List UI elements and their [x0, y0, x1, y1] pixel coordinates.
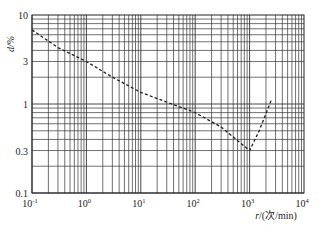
y-tick-1: 1 — [23, 99, 28, 110]
y-tick-3: 3 — [23, 56, 28, 67]
x-tick-label: 104 — [295, 197, 309, 209]
log-log-chart: 10 3 1 0.3 0.1 10-1100101102103104 d/% r… — [0, 0, 321, 227]
x-tick-label: 102 — [187, 197, 200, 209]
y-tick-10: 10 — [18, 10, 28, 21]
y-tick-0.3: 0.3 — [16, 146, 29, 157]
x-tick-label: 100 — [78, 197, 91, 209]
y-axis-ticks: 10 3 1 0.3 0.1 — [16, 10, 29, 199]
x-axis-label: r/(次/min) — [255, 209, 297, 222]
y-axis-label: d/% — [5, 36, 16, 52]
data-curve-dashed — [32, 30, 271, 151]
x-axis-ticks: 10-1100101102103104 — [22, 197, 309, 209]
x-tick-label: 101 — [132, 197, 145, 209]
grid-lines — [32, 15, 304, 193]
x-tick-label: 103 — [241, 197, 254, 209]
x-tick-label: 10-1 — [22, 197, 37, 209]
